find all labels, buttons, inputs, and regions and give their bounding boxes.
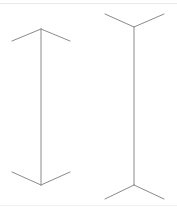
- left-arrow-figure: [12, 29, 70, 185]
- right-top-left-fin: [105, 14, 134, 27]
- bottom-divider-rule: [0, 205, 177, 206]
- right-arrow-figure: [105, 14, 164, 199]
- left-bottom-left-fin: [12, 172, 41, 185]
- left-bottom-right-fin: [41, 172, 70, 185]
- left-top-left-fin: [12, 29, 41, 41]
- right-top-right-fin: [134, 14, 164, 27]
- muller-lyer-diagram: Muller-Lyer illusion figure Two vertical…: [0, 0, 177, 209]
- right-bottom-right-fin: [134, 185, 164, 199]
- left-top-right-fin: [41, 29, 70, 41]
- figure-canvas: Muller-Lyer illusion figure Two vertical…: [0, 0, 177, 209]
- right-bottom-left-fin: [105, 185, 134, 199]
